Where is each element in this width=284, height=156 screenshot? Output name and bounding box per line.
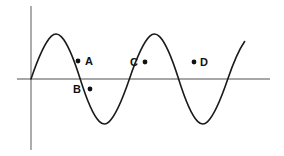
sine-wave-canvas: [0, 0, 284, 156]
point-label-d: D: [200, 57, 208, 68]
point-label-b: B: [73, 84, 81, 95]
sine-wave-figure: A B C D: [0, 0, 284, 156]
marker-point-c: [143, 60, 148, 65]
point-label-c: C: [130, 57, 138, 68]
point-label-a: A: [85, 56, 93, 67]
marker-point-d: [192, 60, 197, 65]
marker-point-a: [76, 59, 81, 64]
marker-point-b: [88, 87, 93, 92]
